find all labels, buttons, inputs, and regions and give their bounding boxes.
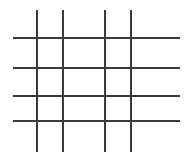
horizontal-grid-line-1 — [13, 37, 180, 39]
vertical-grid-line-1 — [36, 10, 38, 152]
horizontal-grid-line-4 — [13, 120, 180, 122]
horizontal-grid-line-2 — [13, 67, 180, 69]
grid-canvas — [0, 0, 184, 166]
vertical-grid-line-2 — [62, 10, 64, 152]
vertical-grid-line-3 — [104, 10, 106, 152]
vertical-grid-line-4 — [130, 10, 132, 152]
horizontal-grid-line-3 — [13, 95, 180, 97]
